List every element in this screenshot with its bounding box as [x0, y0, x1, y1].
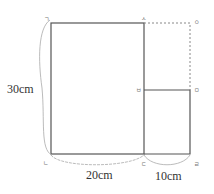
- point-label-mid-right: ㅁ: [194, 86, 200, 93]
- point-label-bottom-right: ㄹ: [194, 160, 200, 167]
- point-label-top-right: ㅇ: [194, 18, 200, 25]
- point-label-bottom-left: ㄴ: [43, 159, 49, 166]
- labels-layer: ㄱ ㅅ ㅇ ㅂ ㅁ ㄴ ㄷ ㄹ 30cm 20cm 10cm: [0, 0, 214, 194]
- point-label-bottom-mid: ㄷ: [141, 160, 147, 167]
- dimension-bottom-right: 10cm: [155, 169, 182, 183]
- point-label-mid-left: ㅂ: [136, 86, 142, 93]
- point-label-top-mid: ㅅ: [141, 14, 147, 21]
- dimension-left: 30cm: [7, 82, 34, 96]
- dimension-bottom-left: 20cm: [86, 168, 113, 182]
- point-label-top-left: ㄱ: [44, 15, 50, 22]
